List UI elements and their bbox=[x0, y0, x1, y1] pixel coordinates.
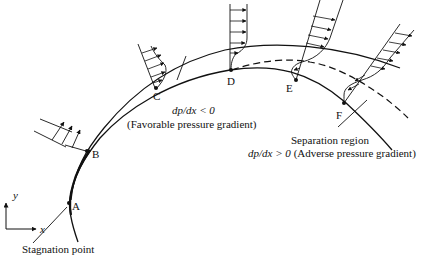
point-b-marker bbox=[85, 149, 89, 153]
adverse-line: dp/dx > 0 (Adverse pressure gradient) bbox=[248, 147, 416, 159]
point-b-label: B bbox=[92, 148, 99, 160]
adverse-description: (Adverse pressure gradient) bbox=[294, 147, 416, 159]
velocity-profile-b bbox=[34, 119, 86, 151]
stagnation-label: Stagnation point bbox=[22, 243, 94, 255]
favorable-description: (Favorable pressure gradient) bbox=[127, 118, 257, 130]
y-axis-label: y bbox=[13, 189, 18, 201]
velocity-profile-d bbox=[229, 4, 247, 72]
point-a-marker bbox=[67, 201, 71, 205]
separation-title: Separation region bbox=[291, 134, 369, 146]
x-axis-label: x bbox=[40, 223, 45, 235]
point-c-label: C bbox=[153, 90, 160, 102]
favorable-leader bbox=[177, 56, 186, 80]
point-f-label: F bbox=[336, 109, 342, 121]
point-a-label: A bbox=[72, 200, 80, 212]
point-d-label: D bbox=[227, 75, 235, 87]
coordinate-axes bbox=[6, 203, 36, 229]
favorable-equation: dp/dx < 0 bbox=[172, 104, 215, 116]
point-e-label: E bbox=[286, 82, 293, 94]
stagnation-leader bbox=[33, 207, 67, 243]
adverse-equation: dp/dx > 0 bbox=[248, 147, 291, 159]
